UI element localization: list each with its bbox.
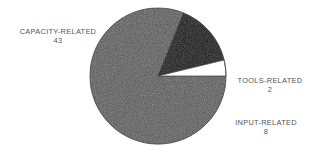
pie-label-input-related-value: 8 (222, 127, 310, 136)
pie-label-capacity-related-value: 43 (6, 36, 110, 45)
pie-chart: CAPACITY-RELATED 43 TOOLS-RELATED 2 INPU… (0, 0, 313, 156)
pie-label-tools-related-name: TOOLS-RELATED (228, 76, 312, 85)
pie-label-input-related-name: INPUT-RELATED (222, 118, 310, 127)
pie-label-capacity-related: CAPACITY-RELATED 43 (6, 27, 110, 45)
pie-label-tools-related: TOOLS-RELATED 2 (228, 76, 312, 94)
pie-label-capacity-related-name: CAPACITY-RELATED (6, 27, 110, 36)
pie-label-input-related: INPUT-RELATED 8 (222, 118, 310, 136)
pie-slices (90, 8, 226, 144)
pie-label-tools-related-value: 2 (228, 85, 312, 94)
